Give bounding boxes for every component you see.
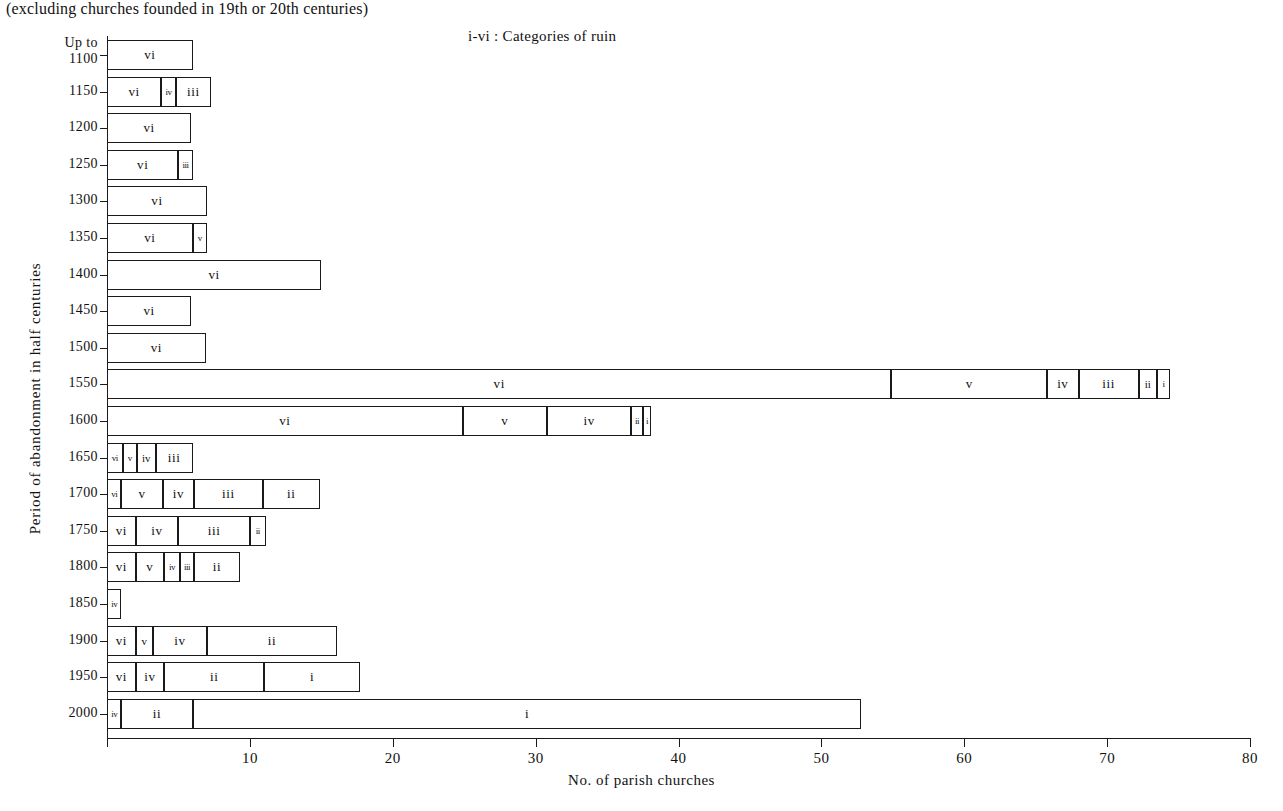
bar-segment-vi[interactable]: vi <box>107 516 136 546</box>
bar-segment-label: vi <box>116 669 127 685</box>
bar-segment-iii[interactable]: iii <box>156 443 193 473</box>
bar-segment-vi[interactable]: vi <box>107 552 136 582</box>
bar-row[interactable]: vi <box>107 113 191 143</box>
bar-segment-ii[interactable]: ii <box>1139 369 1158 399</box>
bar-segment-vi[interactable]: vi <box>107 479 121 509</box>
y-tick-label: 1750 <box>36 522 98 538</box>
bar-segment-label: vi <box>151 193 162 209</box>
x-tick-label: 30 <box>516 750 556 767</box>
bar-segment-i[interactable]: i <box>1157 369 1170 399</box>
bar-segment-v[interactable]: v <box>193 223 207 253</box>
bar-segment-iv[interactable]: iv <box>137 443 156 473</box>
bar-segment-i[interactable]: i <box>193 699 862 729</box>
bar-segment-v[interactable]: v <box>136 552 165 582</box>
bar-segment-iv[interactable]: iv <box>153 626 207 656</box>
bar-segment-ii[interactable]: ii <box>263 479 320 509</box>
bar-segment-v[interactable]: v <box>136 626 153 656</box>
bar-row[interactable]: viiii <box>107 150 193 180</box>
x-tick <box>1250 738 1251 747</box>
bar-segment-ii[interactable]: ii <box>207 626 337 656</box>
bar-segment-label: vi <box>137 157 148 173</box>
bar-segment-i[interactable]: i <box>264 662 360 692</box>
bar-segment-ii[interactable]: ii <box>631 406 642 436</box>
bar-row[interactable]: viv <box>107 223 207 253</box>
bar-segment-iii[interactable]: iii <box>178 516 249 546</box>
bar-segment-vi[interactable]: vi <box>107 626 136 656</box>
bar-segment-iv[interactable]: iv <box>163 479 194 509</box>
bar-segment-label: iv <box>151 523 162 539</box>
x-tick <box>964 738 965 747</box>
x-tick-label: 70 <box>1087 750 1127 767</box>
bar-segment-vi[interactable]: vi <box>107 77 161 107</box>
bar-segment-vi[interactable]: vi <box>107 260 321 290</box>
bar-segment-vi[interactable]: vi <box>107 150 178 180</box>
bar-segment-vi[interactable]: vi <box>107 443 123 473</box>
bar-row[interactable]: vi <box>107 260 321 290</box>
bar-segment-label: iii <box>183 160 189 170</box>
bar-segment-iv[interactable]: iv <box>547 406 631 436</box>
bar-row[interactable]: viiviiiii <box>107 516 266 546</box>
bar-segment-iv[interactable]: iv <box>136 662 165 692</box>
y-tick-label: 1800 <box>36 558 98 574</box>
chart-root: (excluding churches founded in 19th or 2… <box>0 0 1283 811</box>
bar-segment-label: v <box>138 486 145 502</box>
bar-segment-vi[interactable]: vi <box>107 186 207 216</box>
bar-row[interactable]: vi <box>107 333 206 363</box>
bar-segment-iv[interactable]: iv <box>1047 369 1078 399</box>
bar-row[interactable]: vi <box>107 186 207 216</box>
bar-segment-iv[interactable]: iv <box>164 552 180 582</box>
x-tick-label: 50 <box>801 750 841 767</box>
bar-row[interactable]: viviviiiii <box>107 479 320 509</box>
bar-segment-iv[interactable]: iv <box>136 516 179 546</box>
x-tick-label: 80 <box>1230 750 1270 767</box>
bar-row[interactable]: viviviiiii <box>107 552 240 582</box>
bar-segment-vi[interactable]: vi <box>107 113 191 143</box>
bar-segment-iv[interactable]: iv <box>107 589 121 619</box>
bar-row[interactable]: vi <box>107 296 191 326</box>
bar-segment-label: iv <box>165 87 171 97</box>
bar-segment-v[interactable]: v <box>121 479 162 509</box>
bar-row[interactable]: viiviii <box>107 77 211 107</box>
bar-segment-iii[interactable]: iii <box>1079 369 1139 399</box>
bar-segment-label: vi <box>209 267 220 283</box>
y-tick-label: 1950 <box>36 668 98 684</box>
bar-segment-i[interactable]: i <box>643 406 652 436</box>
bar-row[interactable]: vi <box>107 40 193 70</box>
bar-segment-label: iv <box>142 452 151 464</box>
x-tick-label: 10 <box>230 750 270 767</box>
bar-segment-iv[interactable]: iv <box>161 77 175 107</box>
bar-segment-label: iii <box>208 523 221 539</box>
bar-segment-label: iv <box>111 709 117 719</box>
bar-segment-ii[interactable]: ii <box>164 662 264 692</box>
x-tick <box>679 738 680 747</box>
bar-segment-vi[interactable]: vi <box>107 40 193 70</box>
bar-segment-label: iii <box>187 84 200 100</box>
x-tick-label: 60 <box>944 750 984 767</box>
bar-segment-v[interactable]: v <box>123 443 137 473</box>
bar-row[interactable]: viviviii <box>107 443 193 473</box>
bar-segment-ii[interactable]: ii <box>194 552 240 582</box>
bar-segment-vi[interactable]: vi <box>107 406 463 436</box>
bar-segment-ii[interactable]: ii <box>121 699 192 729</box>
bar-row[interactable]: vivivii <box>107 626 337 656</box>
bar-segment-iii[interactable]: iii <box>178 150 192 180</box>
bar-segment-v[interactable]: v <box>891 369 1047 399</box>
bar-segment-iii[interactable]: iii <box>194 479 263 509</box>
bar-segment-vi[interactable]: vi <box>107 333 206 363</box>
bar-row[interactable]: iviii <box>107 699 861 729</box>
bar-segment-vi[interactable]: vi <box>107 296 191 326</box>
bar-segment-iii[interactable]: iii <box>176 77 212 107</box>
bar-segment-vi[interactable]: vi <box>107 223 193 253</box>
bar-segment-vi[interactable]: vi <box>107 369 891 399</box>
bar-row[interactable]: iv <box>107 589 121 619</box>
bar-segment-iii[interactable]: iii <box>180 552 194 582</box>
bar-segment-v[interactable]: v <box>463 406 547 436</box>
bar-row[interactable]: viviviii <box>107 406 651 436</box>
bar-row[interactable]: viiviii <box>107 662 360 692</box>
bar-row[interactable]: viviviiiiii <box>107 369 1170 399</box>
bar-segment-ii[interactable]: ii <box>250 516 266 546</box>
bar-segment-vi[interactable]: vi <box>107 662 136 692</box>
bar-segment-label: iv <box>1057 376 1068 392</box>
bar-segment-iv[interactable]: iv <box>107 699 121 729</box>
x-tick <box>107 738 108 747</box>
